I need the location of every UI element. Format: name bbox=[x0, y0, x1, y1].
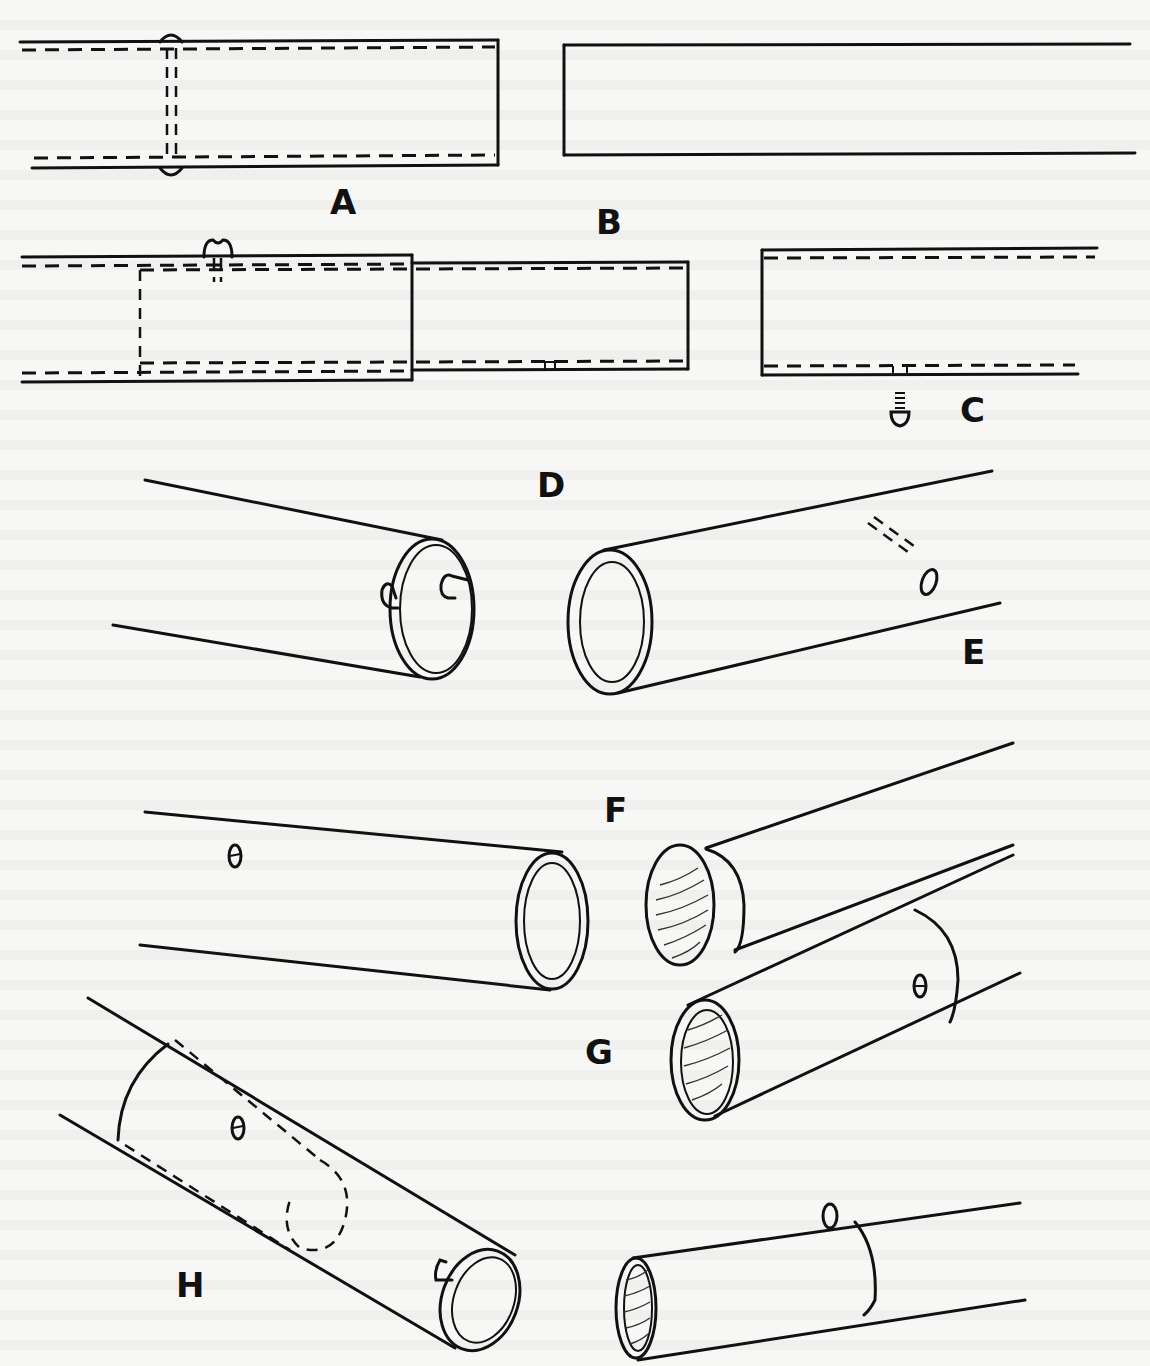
label-f: F bbox=[604, 793, 627, 827]
label-c: C bbox=[960, 393, 985, 427]
screw-head-icon bbox=[232, 1117, 244, 1139]
figure-f-right bbox=[646, 743, 1013, 965]
label-h: H bbox=[176, 1268, 204, 1302]
screw-head-icon bbox=[914, 975, 926, 997]
figure-d bbox=[113, 480, 474, 679]
figure-c bbox=[762, 248, 1097, 426]
figure-f-left bbox=[140, 812, 588, 990]
figure-sleeve-screw bbox=[22, 240, 688, 382]
screw-icon bbox=[891, 393, 909, 426]
wood-grain bbox=[684, 1015, 730, 1100]
label-d: D bbox=[537, 468, 565, 502]
label-g: G bbox=[585, 1035, 613, 1069]
tube-joint-diagram bbox=[0, 0, 1150, 1366]
figure-collar-pin bbox=[616, 1203, 1025, 1360]
figure-g bbox=[671, 855, 1020, 1120]
figure-h bbox=[60, 998, 533, 1362]
figure-e bbox=[568, 471, 1000, 694]
label-e: E bbox=[962, 635, 985, 669]
screw-head-icon bbox=[229, 845, 241, 867]
wood-grain bbox=[656, 868, 708, 958]
label-a: A bbox=[330, 185, 356, 219]
figure-b bbox=[564, 44, 1135, 155]
figure-a bbox=[20, 35, 498, 175]
label-b: B bbox=[596, 205, 622, 239]
